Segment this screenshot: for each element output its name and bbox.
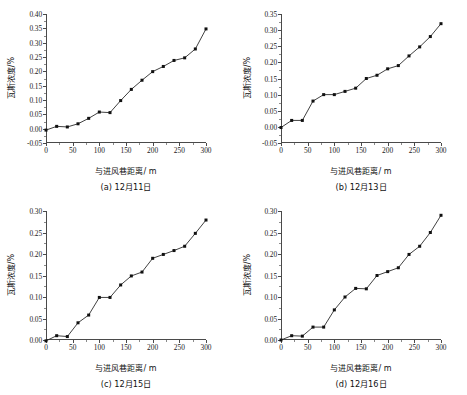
y-tick-label-c: 0.25 — [29, 228, 42, 237]
y-tick-label-c: 0.00 — [29, 336, 42, 345]
x-minor-tick-b — [348, 143, 349, 145]
x-tick-label-b: 200 — [382, 146, 393, 155]
y-tick-label-c: 0.20 — [29, 250, 42, 259]
x-minor-tick-d — [348, 340, 349, 342]
data-point-c — [173, 249, 176, 252]
x-axis-title-c: 与进风巷距离/ m — [95, 362, 156, 373]
x-tick-label-a: 0 — [44, 146, 48, 155]
data-point-b — [440, 22, 443, 25]
x-tick-label-b: 50 — [304, 146, 311, 155]
y-tick-label-a: 0.15 — [29, 81, 42, 90]
x-minor-tick-b — [294, 143, 295, 145]
x-tick-label-a: 150 — [120, 146, 131, 155]
data-point-d — [322, 326, 325, 329]
data-point-a — [45, 129, 48, 132]
y-axis-title-b: 瓦斯浓度/% — [241, 57, 252, 99]
data-point-d — [418, 245, 421, 248]
series-line-d — [281, 215, 441, 340]
data-point-a — [130, 88, 133, 91]
data-point-b — [301, 119, 304, 122]
y-tick-label-b: 0.00 — [264, 122, 277, 131]
data-point-d — [290, 334, 293, 337]
y-tick-label-a: 0.30 — [29, 38, 42, 47]
chart-panel-b: 瓦斯浓度/% -0.050.000.050.100.150.200.250.30… — [233, 0, 467, 197]
y-tick-label-a: 0.25 — [29, 53, 42, 62]
data-point-a — [194, 47, 197, 50]
y-tick-label-b: 0.30 — [264, 26, 277, 35]
y-tick-label-a: 0.05 — [29, 110, 42, 119]
data-point-c — [151, 257, 154, 260]
data-point-d — [408, 253, 411, 256]
y-tick-label-a: -0.05 — [27, 139, 42, 148]
y-axis-title-d: 瓦斯浓度/% — [241, 254, 252, 296]
data-point-d — [301, 335, 304, 338]
x-minor-tick-b — [401, 143, 402, 145]
x-tick-label-c: 150 — [120, 343, 131, 352]
data-point-a — [205, 27, 208, 30]
data-point-b — [408, 54, 411, 57]
x-tick-label-d: 0 — [279, 343, 283, 352]
y-axis-title-a: 瓦斯浓度/% — [5, 57, 16, 99]
data-point-c — [205, 219, 208, 222]
data-series-d — [281, 211, 441, 340]
data-point-b — [312, 100, 315, 103]
data-point-d — [354, 287, 357, 290]
data-point-b — [280, 126, 283, 129]
chart-panel-a: 瓦斯浓度/% -0.050.000.050.100.150.200.250.30… — [0, 0, 233, 197]
y-tick-label-b: 0.10 — [264, 90, 277, 99]
x-tick-label-b: 100 — [329, 146, 340, 155]
data-point-c — [55, 334, 58, 337]
y-tick-label-b: -0.05 — [262, 139, 277, 148]
x-minor-tick-d — [374, 340, 375, 342]
data-point-c — [66, 335, 69, 338]
data-series-c — [46, 211, 206, 340]
data-point-b — [376, 74, 379, 77]
data-point-a — [119, 99, 122, 102]
x-tick-label-a: 50 — [69, 146, 76, 155]
y-tick-label-b: 0.25 — [264, 42, 277, 51]
data-series-b — [281, 14, 441, 143]
data-point-b — [386, 67, 389, 70]
y-tick-label-d: 0.20 — [264, 250, 277, 259]
y-tick-label-c: 0.10 — [29, 293, 42, 302]
y-tick-label-c: 0.30 — [29, 207, 42, 216]
x-tick-label-b: 250 — [409, 146, 420, 155]
chart-panel-d: 瓦斯浓度/% 0.000.050.100.150.200.250.30 0501… — [233, 197, 467, 395]
data-point-d — [312, 326, 315, 329]
data-point-a — [141, 79, 144, 82]
data-point-c — [130, 274, 133, 277]
plot-area-d: 0.000.050.100.150.200.250.30 05010015020… — [281, 211, 441, 340]
x-axis-title-a: 与进风巷距离/ m — [95, 165, 156, 176]
x-tick-label-c: 250 — [174, 343, 185, 352]
y-tick-label-d: 0.05 — [264, 314, 277, 323]
data-point-a — [151, 70, 154, 73]
x-tick-label-c: 200 — [147, 343, 158, 352]
x-tick-label-d: 300 — [435, 343, 446, 352]
data-point-c — [45, 339, 48, 342]
x-minor-tick-c — [139, 340, 140, 342]
x-tick-label-c: 300 — [200, 343, 211, 352]
y-tick-label-b: 0.20 — [264, 58, 277, 67]
data-point-d — [376, 274, 379, 277]
y-tick-label-d: 0.25 — [264, 228, 277, 237]
x-tick-label-d: 150 — [355, 343, 366, 352]
x-tick-label-c: 0 — [44, 343, 48, 352]
data-point-d — [280, 339, 283, 342]
x-minor-tick-b — [321, 143, 322, 145]
x-axis-title-b: 与进风巷距离/ m — [330, 165, 391, 176]
x-tick-label-b: 300 — [435, 146, 446, 155]
data-series-a — [46, 14, 206, 143]
x-tick-label-a: 100 — [94, 146, 105, 155]
data-point-b — [354, 87, 357, 90]
x-tick-label-d: 50 — [304, 343, 311, 352]
x-minor-tick-a — [113, 143, 114, 145]
x-minor-tick-a — [59, 143, 60, 145]
data-point-b — [429, 35, 432, 38]
y-tick-label-b: 0.05 — [264, 106, 277, 115]
x-tick-label-a: 250 — [174, 146, 185, 155]
data-point-d — [333, 308, 336, 311]
panel-caption-d: (d) 12月16日 — [335, 377, 386, 389]
x-minor-tick-c — [59, 340, 60, 342]
plot-area-c: 0.000.050.100.150.200.250.30 05010015020… — [46, 211, 206, 340]
data-point-a — [173, 59, 176, 62]
